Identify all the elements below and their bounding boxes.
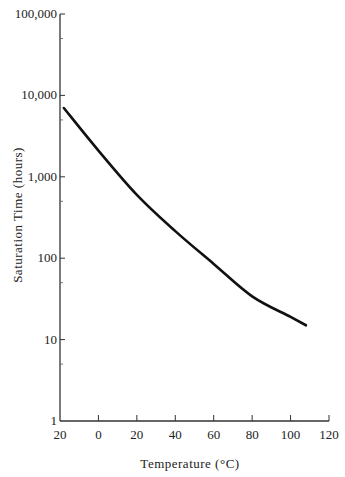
x-tick-label: 60 [207,427,220,442]
x-axis-ticks: 20020406080100120 [54,415,339,442]
y-tick-label: 100,000 [15,6,57,21]
x-tick-label: 20 [130,427,143,442]
x-tick-label: 20 [54,427,67,442]
y-tick-label: 1 [51,413,58,428]
y-axis-title: Saturation Time (hours) [10,147,25,283]
y-tick-label: 10 [44,332,57,347]
x-tick-label: 40 [169,427,182,442]
y-tick-label: 100 [38,250,58,265]
y-tick-label: 10,000 [21,87,57,102]
x-tick-label: 120 [319,427,339,442]
x-tick-label: 0 [95,427,102,442]
y-tick-label: 1,000 [28,169,57,184]
axes [60,14,329,421]
x-axis-title: Temperature (°C) [140,456,239,471]
chart: 1101001,00010,000100,000 200204060801001… [0,0,345,477]
saturation-curve [64,108,306,325]
x-tick-label: 80 [246,427,259,442]
x-tick-label: 100 [281,427,301,442]
